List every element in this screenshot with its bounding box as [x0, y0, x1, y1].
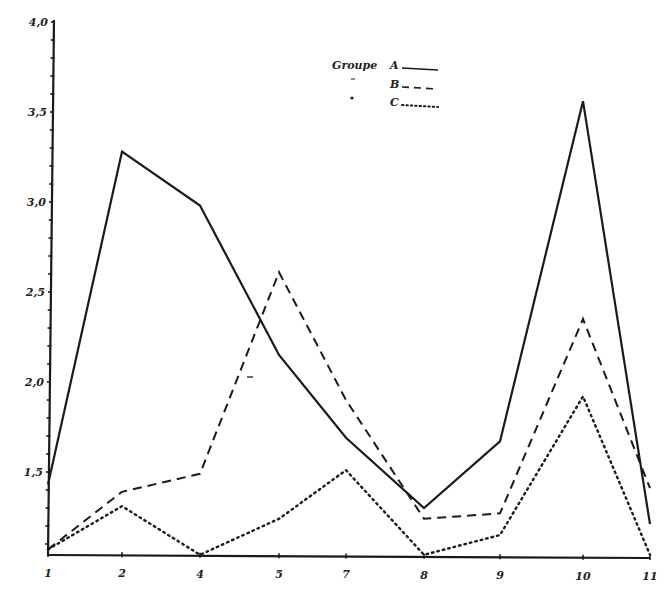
legend-swatch-a	[402, 68, 438, 70]
legend-label-b: B	[389, 78, 399, 91]
y-tick-label: 1,5	[24, 466, 43, 479]
x-tick-label: 1	[44, 567, 52, 580]
legend: GroupeABC	[247, 59, 438, 377]
x-tick-label: 8	[420, 569, 428, 582]
x-tick-label: 11	[642, 570, 657, 583]
x-axis	[48, 555, 650, 558]
y-tick-label: 4,0	[29, 16, 48, 29]
data-series	[48, 101, 650, 555]
legend-label-c: C	[390, 96, 399, 109]
x-tick-label: 9	[496, 569, 504, 582]
x-tick-label: 2	[117, 567, 126, 580]
x-tick-label: 4	[196, 568, 204, 581]
line-chart: 1,52,02,53,03,54,0 12457891011 GroupeABC	[0, 0, 670, 597]
legend-mark-c	[350, 96, 353, 99]
series-b-line	[48, 272, 650, 549]
y-tick-label: 2,0	[24, 376, 44, 389]
y-tick-label: 3,5	[28, 106, 47, 119]
legend-title: Groupe	[332, 59, 377, 72]
y-tick-label: 2,5	[25, 286, 45, 299]
legend-label-a: A	[389, 59, 399, 72]
x-tick-label: 10	[575, 570, 591, 583]
series-a-line	[48, 101, 650, 524]
legend-swatch-b	[402, 87, 438, 89]
x-tick-label: 5	[275, 568, 283, 581]
x-tick-label: 7	[342, 568, 350, 581]
axes	[48, 20, 650, 558]
legend-swatch-c	[402, 105, 438, 107]
series-c-line	[48, 396, 650, 554]
y-tick-label: 3,0	[27, 196, 46, 209]
